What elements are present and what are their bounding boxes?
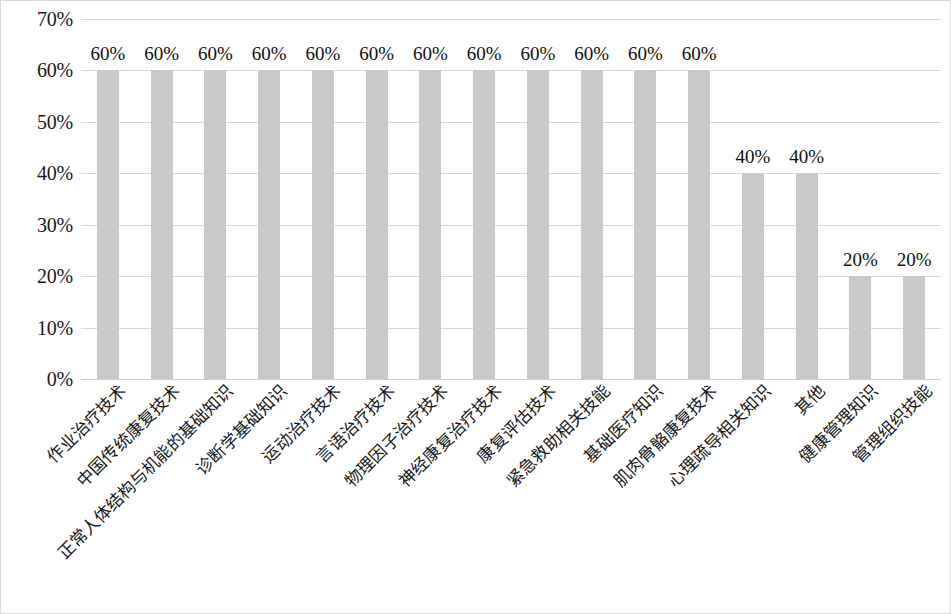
bar[interactable] — [473, 70, 495, 379]
plot-area: 60%60%60%60%60%60%60%60%60%60%60%60%40%4… — [81, 19, 941, 379]
bar-value-label: 20% — [897, 250, 932, 269]
y-axis: 70%60%50%40%30%20%10%0% — [1, 19, 73, 379]
bar[interactable] — [903, 276, 925, 379]
bar[interactable] — [151, 70, 173, 379]
x-axis-category-label: 其他 — [791, 381, 828, 418]
bar-value-label: 60% — [90, 44, 125, 63]
bar-value-label: 40% — [789, 147, 824, 166]
bar-column[interactable]: 60% — [366, 19, 388, 379]
bar[interactable] — [258, 70, 280, 379]
bar-column[interactable]: 20% — [903, 19, 925, 379]
bar-value-label: 60% — [144, 44, 179, 63]
bar-column[interactable]: 60% — [634, 19, 656, 379]
y-axis-tick-label: 40% — [3, 163, 73, 183]
bar-value-label: 60% — [198, 44, 233, 63]
bar[interactable] — [97, 70, 119, 379]
bar[interactable] — [581, 70, 603, 379]
bar-column[interactable]: 60% — [97, 19, 119, 379]
gridline-0 — [81, 379, 941, 380]
bar-column[interactable]: 40% — [796, 19, 818, 379]
y-axis-tick-label: 50% — [3, 112, 73, 132]
bar-value-label: 20% — [843, 250, 878, 269]
bar[interactable] — [742, 173, 764, 379]
y-axis-tick-label: 60% — [3, 60, 73, 80]
bar-value-label: 60% — [628, 44, 663, 63]
bar-chart: 70%60%50%40%30%20%10%0% 60%60%60%60%60%6… — [0, 0, 951, 614]
bar-value-label: 60% — [252, 44, 287, 63]
bar-column[interactable]: 60% — [258, 19, 280, 379]
bar-column[interactable]: 60% — [688, 19, 710, 379]
y-axis-tick-label: 30% — [3, 215, 73, 235]
bar-value-label: 60% — [305, 44, 340, 63]
y-axis-tick-label: 10% — [3, 318, 73, 338]
y-axis-tick-label: 0% — [3, 369, 73, 389]
x-axis-labels: 作业治疗技术中国传统康复技术正常人体结构与机能的基础知识诊断学基础知识运动治疗技… — [81, 381, 941, 611]
bar-column[interactable]: 60% — [473, 19, 495, 379]
bar-column[interactable]: 40% — [742, 19, 764, 379]
bar-value-label: 60% — [413, 44, 448, 63]
x-axis-category-label: 心理疏导相关知识 — [665, 381, 774, 490]
bar[interactable] — [688, 70, 710, 379]
bar[interactable] — [366, 70, 388, 379]
bar[interactable] — [419, 70, 441, 379]
y-axis-tick-label: 20% — [3, 266, 73, 286]
bar-column[interactable]: 60% — [204, 19, 226, 379]
bar[interactable] — [204, 70, 226, 379]
bar[interactable] — [312, 70, 334, 379]
bar-column[interactable]: 60% — [312, 19, 334, 379]
bar-column[interactable]: 60% — [581, 19, 603, 379]
bar[interactable] — [849, 276, 871, 379]
bar-value-label: 60% — [359, 44, 394, 63]
bar[interactable] — [796, 173, 818, 379]
bar-value-label: 60% — [574, 44, 609, 63]
bar-column[interactable]: 60% — [419, 19, 441, 379]
bar-value-label: 60% — [682, 44, 717, 63]
bar[interactable] — [527, 70, 549, 379]
bar-value-label: 40% — [735, 147, 770, 166]
bar[interactable] — [634, 70, 656, 379]
bar-column[interactable]: 60% — [527, 19, 549, 379]
bar-value-label: 60% — [467, 44, 502, 63]
bar-column[interactable]: 60% — [151, 19, 173, 379]
y-axis-tick-label: 70% — [3, 9, 73, 29]
bar-value-label: 60% — [520, 44, 555, 63]
bar-column[interactable]: 20% — [849, 19, 871, 379]
